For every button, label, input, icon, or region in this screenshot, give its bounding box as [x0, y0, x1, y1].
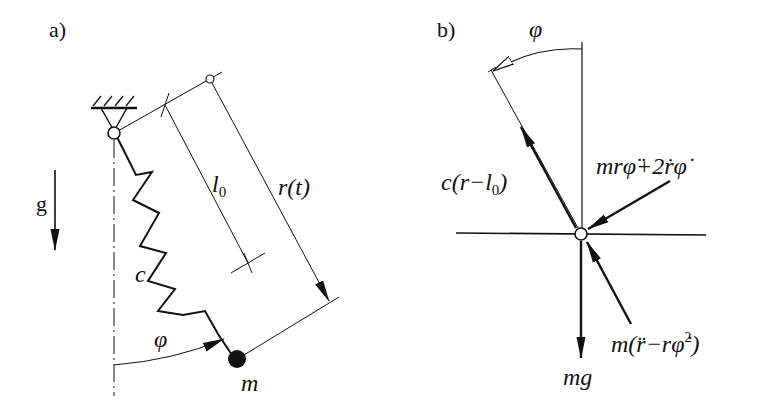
tangential-inertia-arrow: [588, 181, 670, 229]
panel-a-label: a): [49, 19, 66, 41]
inclined-reference-line: [491, 70, 578, 228]
angle-arc: [114, 339, 224, 365]
mass: [228, 350, 246, 368]
radial-inertia-label: m(r̈−rφ̇2): [611, 332, 699, 356]
angle-arc-b: [493, 49, 582, 71]
gravity-label: g: [36, 193, 47, 215]
natural-length-label: l0: [212, 172, 226, 196]
panel-a: [55, 72, 339, 396]
l0-dimension-line: [165, 105, 248, 263]
pivot-joint: [108, 127, 120, 139]
weight-label: mg: [563, 365, 592, 389]
angle-label-a: φ: [154, 327, 167, 351]
radial-inertia-arrow: [587, 242, 631, 324]
angle-label-b: φ: [529, 17, 542, 41]
dimension-origin-circle: [206, 75, 214, 83]
panel-b: [456, 42, 706, 358]
mass-point: [575, 228, 587, 240]
spring-force-label: c(r−l0): [441, 170, 507, 194]
radius-label: r(t): [278, 175, 310, 199]
mass-label: m: [241, 371, 258, 395]
fixed-support-icon: [91, 96, 137, 131]
r-dimension-arrow: [212, 83, 329, 301]
tangential-inertia-label: mrφ̈+2ṙφ̇: [596, 154, 687, 178]
spring-force-arrow: [521, 127, 576, 228]
panel-b-label: b): [437, 19, 455, 41]
spring-constant-label: c: [135, 262, 146, 286]
spring: [117, 137, 232, 355]
